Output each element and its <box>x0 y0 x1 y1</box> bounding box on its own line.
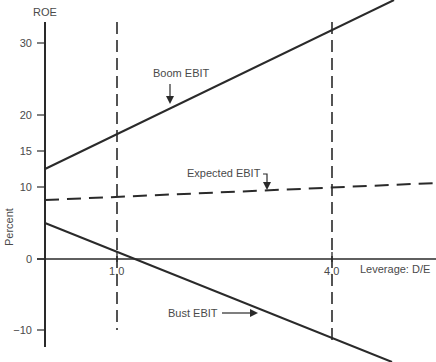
series-bust-ebit <box>45 223 392 362</box>
y-ticks <box>37 43 45 330</box>
x-tick-label-4.0: 4.0 <box>324 266 339 277</box>
series-expected-ebit <box>45 183 436 200</box>
roe-leverage-chart <box>0 0 436 362</box>
x-tick-label-1.0: 1.0 <box>109 266 124 277</box>
annotation-boom-ebit: Boom EBIT <box>153 68 209 79</box>
y-tick-label-0: 0 <box>6 254 32 265</box>
y-tick-label-20: 20 <box>6 110 32 121</box>
y-tick-label-30: 30 <box>6 38 32 49</box>
y-axis-label: Percent <box>4 208 15 246</box>
series-boom-ebit <box>45 0 394 169</box>
annotation-bust-ebit: Bust EBIT <box>168 308 218 319</box>
y-tick-label-10: 10 <box>6 182 32 193</box>
y-axis-top-label: ROE <box>33 7 57 18</box>
x-axis-label: Leverage: D/E <box>360 264 430 275</box>
y-tick-label-neg10: −10 <box>6 325 32 336</box>
y-tick-label-15: 15 <box>6 146 32 157</box>
arrow-expected <box>263 174 267 186</box>
annotation-expected-ebit: Expected EBIT <box>187 168 260 179</box>
